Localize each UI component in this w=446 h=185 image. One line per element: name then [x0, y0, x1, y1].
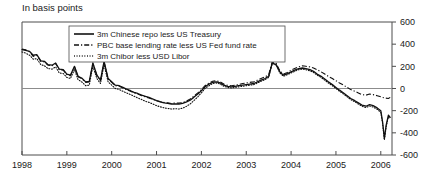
chart-container: In basis points 6004002000-200-400-600 1…: [0, 0, 446, 185]
x-tick-label: 2005: [326, 160, 346, 170]
y-tick-label: 0: [400, 84, 405, 94]
chart-title: In basis points: [22, 2, 83, 13]
y-tick-label: 400: [400, 39, 415, 49]
y-tick-label: -600: [400, 150, 418, 160]
y-tick-label: 200: [400, 62, 415, 72]
legend-label-1: PBC base lending rate less US Fed fund r…: [97, 41, 257, 50]
x-tick-label: 2006: [371, 160, 391, 170]
x-tick-label: 2003: [236, 160, 256, 170]
series-line-0: [22, 50, 390, 139]
x-tick-label: 1999: [57, 160, 77, 170]
legend-label-2: 3m Chibor less USD Libor: [97, 52, 190, 61]
legend-item-dashdot: PBC base lending rate less US Fed fund r…: [74, 41, 257, 50]
y-tick-label: -400: [400, 128, 418, 138]
x-axis-ticks: [22, 151, 381, 155]
y-axis-labels: 6004002000-200-400-600: [400, 17, 418, 160]
y-tick-label: 600: [400, 17, 415, 27]
x-tick-label: 2002: [191, 160, 211, 170]
x-tick-label: 1998: [12, 160, 32, 170]
y-axis-ticks: [392, 22, 396, 155]
x-tick-label: 2004: [281, 160, 301, 170]
legend-item-solid: 3m Chinese repo less US Treasury: [74, 30, 221, 39]
line-chart: In basis points 6004002000-200-400-600 1…: [0, 0, 446, 185]
series-line-2: [22, 52, 390, 140]
y-tick-label: -200: [400, 106, 418, 116]
legend-label-0: 3m Chinese repo less US Treasury: [97, 30, 221, 39]
data-series-group: [22, 49, 390, 140]
legend: 3m Chinese repo less US Treasury PBC bas…: [69, 26, 285, 62]
x-axis-labels: 199819992000200120022003200420052006: [12, 160, 391, 170]
x-tick-label: 2000: [102, 160, 122, 170]
x-tick-label: 2001: [147, 160, 167, 170]
